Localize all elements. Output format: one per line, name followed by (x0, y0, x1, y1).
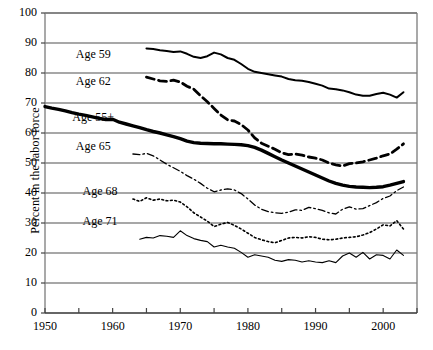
series-label-age-59: Age 59 (76, 47, 111, 62)
series-label-age-71: Age 71 (82, 214, 117, 229)
plot-area (0, 0, 433, 350)
series-label-age-68: Age 68 (82, 184, 117, 199)
series-line-age-71 (140, 231, 404, 263)
series-label-age-55: Age 55+ (72, 110, 114, 125)
series-label-age-62: Age 62 (76, 74, 111, 89)
series-label-age-65: Age 65 (76, 139, 111, 154)
series-line-age-68 (133, 198, 404, 243)
labor-force-participation-chart: Percent in the labor force 0102030405060… (0, 0, 433, 350)
series-line-age-62 (146, 77, 403, 166)
